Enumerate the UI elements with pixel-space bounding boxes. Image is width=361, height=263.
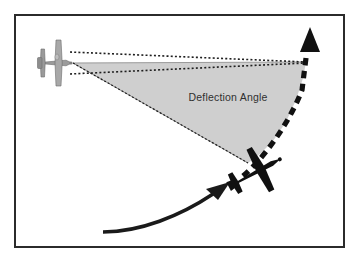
shooter-canopy: [55, 54, 59, 60]
deflection-angle-label: Deflection Angle: [188, 91, 267, 103]
figure-root: Deflection Angle: [0, 0, 361, 263]
shooter-spinner: [69, 61, 72, 64]
shooter-fin: [38, 58, 43, 69]
shooter-main-wing: [55, 40, 62, 86]
deflection-angle-diagram: Deflection Angle: [0, 0, 361, 263]
